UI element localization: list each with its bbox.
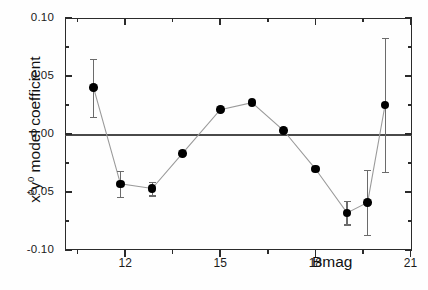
figure-canvas: x0y0 model coefficient Bmag 0.100.050.00… <box>0 0 428 290</box>
data-line-layer <box>0 0 428 290</box>
series-line <box>94 88 386 213</box>
